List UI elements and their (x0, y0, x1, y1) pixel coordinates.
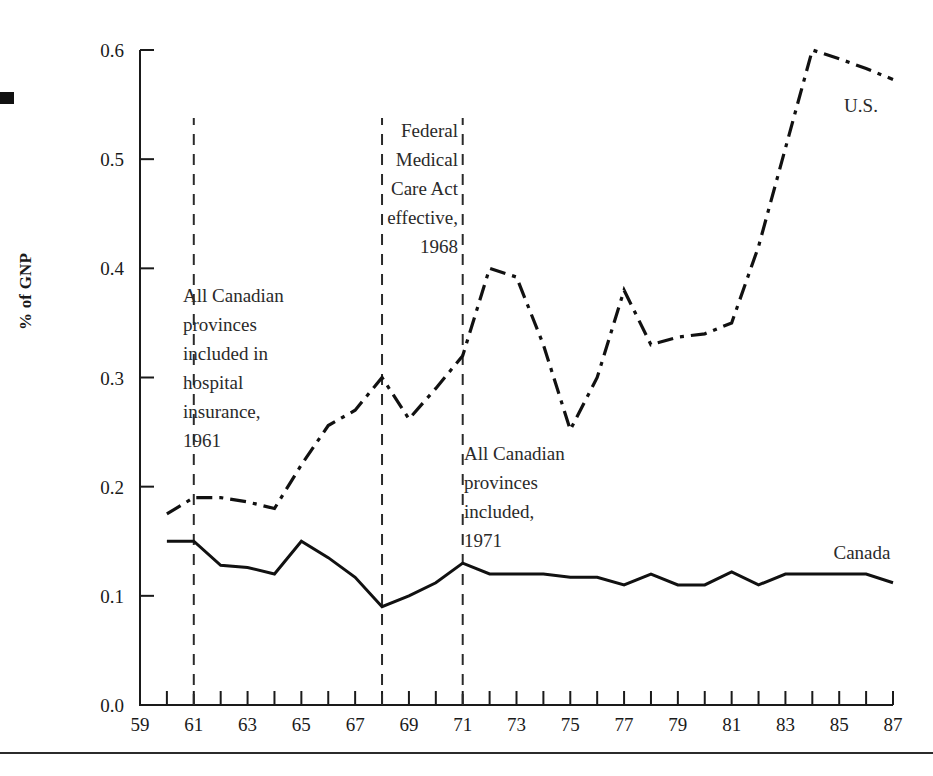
annotation-line: 1961 (183, 430, 221, 451)
x-tick-label: 83 (776, 714, 795, 735)
annotation-line: All Canadian (183, 285, 284, 306)
x-tick-label: 65 (292, 714, 311, 735)
annotation-line: provinces (464, 472, 538, 493)
y-tick-label: 0.2 (100, 477, 124, 498)
y-tick-label: 0.4 (100, 258, 124, 279)
x-tick-label: 69 (399, 714, 418, 735)
x-tick-label: 61 (184, 714, 203, 735)
x-tick-label: 59 (131, 714, 150, 735)
series-label-canada: Canada (834, 542, 892, 563)
annotation-line: 1971 (464, 530, 502, 551)
annotation-line: Care Act (391, 178, 459, 199)
data-series-group (167, 50, 893, 607)
chart-plot-area: 0.00.10.20.30.40.50.65961636567697173757… (0, 0, 933, 776)
annotation-line: 1968 (420, 236, 458, 257)
series-line-canada (167, 541, 893, 607)
figure-container: % of GNP 0.00.10.20.30.40.50.65961636567… (0, 0, 933, 776)
y-tick-label: 0.6 (100, 40, 124, 61)
annotation-line: Medical (396, 149, 458, 170)
annotation-all-provinces-included-1971: All Canadianprovincesincluded,1971 (464, 443, 565, 551)
annotation-line: effective, (387, 207, 458, 228)
x-tick-label: 63 (238, 714, 257, 735)
y-tick-label: 0.1 (100, 586, 124, 607)
annotation-line: included in (183, 343, 268, 364)
y-tick-label: 0.3 (100, 368, 124, 389)
annotation-line: Federal (401, 120, 458, 141)
x-tick-label: 75 (561, 714, 580, 735)
annotation-hospital-insurance-1961: All Canadianprovincesincluded inhospital… (183, 285, 284, 451)
annotation-line: All Canadian (464, 443, 565, 464)
annotations-group: All Canadianprovincesincluded inhospital… (183, 120, 565, 551)
annotation-line: hospital (183, 372, 243, 393)
annotation-line: insurance, (183, 401, 261, 422)
x-tick-label: 79 (668, 714, 687, 735)
x-tick-label: 71 (453, 714, 472, 735)
y-tick-label: 0.5 (100, 149, 124, 170)
series-labels-group: U.S.Canada (834, 95, 892, 563)
bottom-divider-rule (0, 752, 933, 754)
axis-spines (140, 50, 893, 705)
annotation-federal-medical-care-act-1968: FederalMedicalCare Acteffective,1968 (387, 120, 459, 257)
x-tick-label: 67 (346, 714, 365, 735)
x-tick-label: 87 (884, 714, 903, 735)
x-tick-label: 85 (830, 714, 849, 735)
x-tick-label: 73 (507, 714, 526, 735)
annotation-line: provinces (183, 314, 257, 335)
x-tick-label: 81 (722, 714, 741, 735)
y-tick-label: 0.0 (100, 695, 124, 716)
annotation-line: included, (464, 501, 534, 522)
series-label-us: U.S. (844, 95, 878, 116)
x-tick-label: 77 (615, 714, 634, 735)
